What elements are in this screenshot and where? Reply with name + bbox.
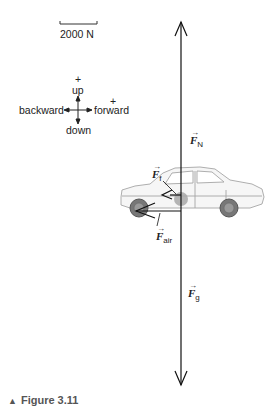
gravity-force-label: →Fg: [188, 287, 200, 302]
figure-caption: ▲Figure 3.11: [8, 394, 78, 406]
backward-label: backward: [19, 104, 64, 116]
gravity-force-vector: [175, 199, 187, 385]
scale-label: 2000 N: [60, 28, 94, 40]
free-body-diagram: [0, 0, 272, 413]
friction-force-label: →Ff: [152, 168, 162, 183]
normal-force-label: →FN: [190, 134, 203, 149]
down-label: down: [66, 124, 91, 136]
forward-label: forward: [94, 104, 129, 116]
scale-bar: [60, 21, 97, 24]
up-label: up: [72, 84, 84, 96]
air-resistance-label: →Fair: [156, 230, 172, 245]
caption-text: Figure 3.11: [21, 394, 78, 406]
direction-cross-icon: [64, 96, 92, 124]
triangle-marker-icon: ▲: [8, 396, 17, 406]
